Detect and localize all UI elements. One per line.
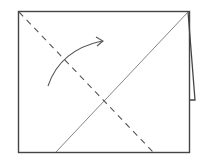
paper-square (19, 12, 190, 153)
origami-diagram (0, 0, 208, 163)
